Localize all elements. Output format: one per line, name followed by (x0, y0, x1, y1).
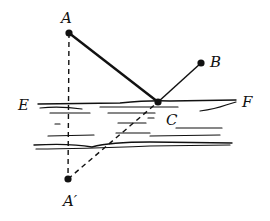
point-c (154, 98, 161, 105)
water-line (40, 107, 82, 109)
water-line (36, 145, 230, 149)
segment-c-b (158, 63, 201, 102)
point-b (197, 59, 204, 66)
reflection-diagram: A B C A′ E F (0, 0, 270, 221)
water-line (200, 102, 236, 111)
segment-a-c (69, 33, 158, 102)
diagram-svg: A B C A′ E F (0, 0, 270, 221)
point-a-prime (64, 175, 71, 182)
river-bank-ef (38, 100, 236, 104)
label-e: E (17, 96, 29, 114)
label-c: C (166, 111, 178, 129)
river (34, 100, 236, 149)
label-a: A (59, 9, 72, 27)
water-line (150, 135, 220, 136)
point-a (65, 29, 72, 36)
label-f: F (241, 93, 253, 111)
label-b: B (209, 53, 221, 71)
water-line (48, 135, 94, 136)
segment-a-aprime-dashed (68, 33, 69, 179)
label-a-prime: A′ (61, 192, 78, 210)
